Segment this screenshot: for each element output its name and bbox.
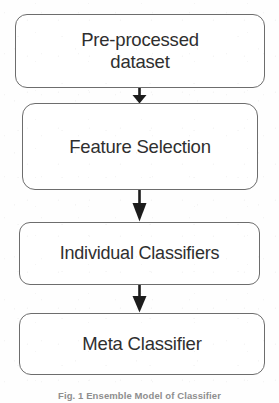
arrow-feature-selection-to-individual-classifiers xyxy=(133,190,147,222)
flow-node-pre-processed-dataset: Pre-processed dataset xyxy=(15,14,265,88)
flow-node-meta-classifier: Meta Classifier xyxy=(19,313,265,375)
flow-node-feature-selection: Feature Selection xyxy=(22,103,258,190)
flowchart-figure: Pre-processed dataset Feature Selection … xyxy=(0,0,279,403)
arrow-dataset-to-feature-selection xyxy=(133,88,147,104)
flow-node-individual-classifiers: Individual Classifiers xyxy=(19,222,260,285)
figure-caption-text: Fig. 1 Ensemble Model of Classifier xyxy=(0,391,279,401)
figure-caption: Fig. 1 Ensemble Model of Classifier xyxy=(0,391,279,403)
arrow-individual-classifiers-to-meta-classifier xyxy=(133,285,147,313)
